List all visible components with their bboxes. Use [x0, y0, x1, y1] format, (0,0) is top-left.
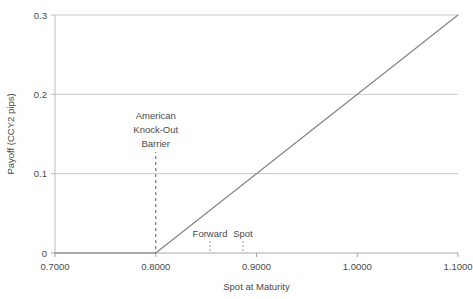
spot-marker-label: Spot [233, 228, 253, 239]
x-tick-label-0-8000: 0.8000 [141, 261, 170, 272]
y-tick-label-0-1: 0.1 [34, 168, 47, 179]
x-tick-label-1-1000: 1.1000 [443, 261, 472, 272]
x-tick-label-0-9000: 0.9000 [242, 261, 271, 272]
x-axis-title: Spot at Maturity [223, 281, 290, 292]
y-tick-label-0-2: 0.2 [34, 89, 47, 100]
chart-canvas: 0.3 0.2 0.1 0 0.7000 0.8000 0.9000 1.000… [0, 0, 473, 299]
y-tick-label-0: 0 [42, 248, 47, 259]
barrier-label-line-3-fg: Barrier [141, 138, 170, 149]
chart-background [0, 0, 473, 299]
x-tick-label-1-0000: 1.0000 [343, 261, 372, 272]
y-tick-label-0-3: 0.3 [34, 10, 47, 21]
forward-marker-label: Forward [193, 228, 228, 239]
payoff-chart: 0.3 0.2 0.1 0 0.7000 0.8000 0.9000 1.000… [0, 0, 473, 299]
x-tick-label-0-7000: 0.7000 [40, 261, 69, 272]
y-axis-title: Payoff (CCY2 pips) [5, 93, 16, 174]
barrier-label-line-2-fg: Knock-Out [133, 124, 178, 135]
barrier-label-line-1-fg: American [136, 110, 176, 121]
